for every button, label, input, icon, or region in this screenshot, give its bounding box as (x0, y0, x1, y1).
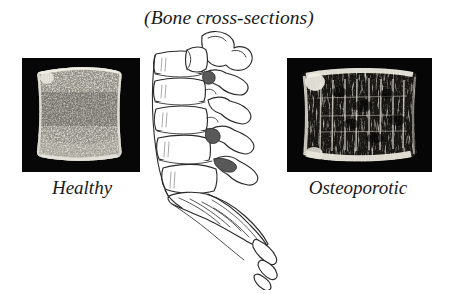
radiograph-panel-osteoporotic (287, 58, 432, 172)
panel-label-healthy: Healthy (12, 177, 152, 199)
healthy-bone-image (22, 58, 140, 172)
bone-comparison-figure: (Bone cross-sections) (0, 0, 458, 294)
lumbar-spine-lateral-drawing (146, 28, 298, 290)
radiograph-panel-healthy (22, 58, 140, 172)
panel-label-osteoporotic: Osteoporotic (282, 177, 434, 199)
spine-illustration (146, 28, 298, 290)
t12-vertebral-body (186, 47, 208, 72)
cortical-nodule (305, 73, 325, 91)
coccyx (253, 239, 277, 290)
osteoporotic-trabecular-bone (287, 58, 432, 172)
figure-title: (Bone cross-sections) (0, 7, 458, 29)
osteoporotic-bone-image (287, 58, 432, 172)
